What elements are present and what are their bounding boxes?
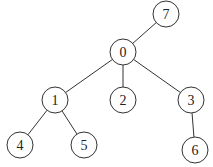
edge-0-3 xyxy=(134,59,181,92)
node-label: 1 xyxy=(52,93,59,108)
edge-1-4 xyxy=(28,110,47,134)
node-7: 7 xyxy=(153,1,179,27)
edge-0-1 xyxy=(66,59,113,92)
node-2: 2 xyxy=(110,87,136,113)
nodes-layer: 70123456 xyxy=(7,1,208,163)
node-6: 6 xyxy=(182,137,208,163)
node-3: 3 xyxy=(178,87,204,113)
tree-diagram: 70123456 xyxy=(0,0,213,167)
edge-3-6 xyxy=(192,113,194,137)
edge-7-0 xyxy=(133,23,157,44)
node-label: 0 xyxy=(120,45,127,60)
node-0: 0 xyxy=(110,39,136,65)
node-4: 4 xyxy=(7,132,33,158)
node-label: 6 xyxy=(192,143,199,158)
node-label: 5 xyxy=(81,138,88,153)
node-label: 2 xyxy=(120,93,127,108)
node-label: 7 xyxy=(163,7,170,22)
node-label: 4 xyxy=(17,138,24,153)
node-1: 1 xyxy=(42,87,68,113)
node-5: 5 xyxy=(71,132,97,158)
node-label: 3 xyxy=(188,93,195,108)
edges-layer xyxy=(28,23,194,137)
edge-1-5 xyxy=(62,111,77,134)
